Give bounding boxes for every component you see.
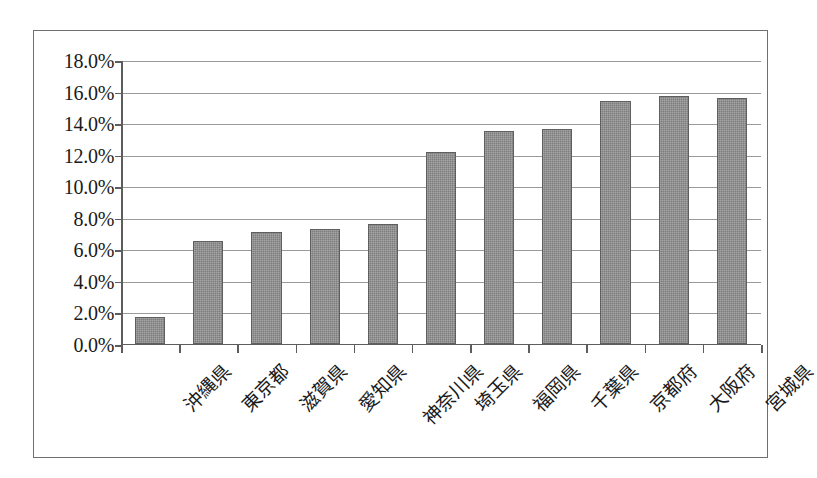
x-axis-tick-label-text: 滋賀県 [297,361,351,415]
y-axis-tick-label: 2.0% [74,303,114,323]
x-axis-tick-mark [586,345,588,353]
x-axis-tick-mark [761,345,763,353]
figure-frame: 0.0%2.0%4.0%6.0%8.0%10.0%12.0%14.0%16.0%… [33,30,768,458]
bar [251,232,281,344]
plot-area: 0.0%2.0%4.0%6.0%8.0%10.0%12.0%14.0%16.0%… [121,61,761,345]
bar [600,101,630,344]
y-axis-tick-mark [115,187,122,189]
x-axis-tick-mark [703,345,705,353]
gridline [121,93,761,94]
x-axis-tick-mark [412,345,414,353]
x-axis-tick-label-text: 千葉県 [588,361,642,415]
y-axis-tick-label: 8.0% [74,209,114,229]
x-axis-tick-label-text: 東京都 [239,361,293,415]
y-axis-tick-label: 14.0% [64,114,114,134]
bar [135,317,165,344]
y-axis-tick-mark [115,282,122,284]
x-axis-tick-label: 滋賀県 [297,361,351,415]
y-axis-tick-label: 12.0% [64,146,114,166]
x-axis-tick-label-text: 宮城県 [763,361,817,415]
bar [717,98,747,344]
x-axis-tick-mark [470,345,472,353]
y-axis-tick-mark [115,156,122,158]
y-axis-tick-mark [115,124,122,126]
x-axis-tick-label: 千葉県 [588,361,642,415]
x-axis-tick-label: 沖縄県 [181,361,235,415]
x-axis-tick-mark [179,345,181,353]
x-axis-tick-mark [528,345,530,353]
x-axis-tick-label-text: 大阪府 [704,361,758,415]
y-axis-tick-label: 18.0% [64,51,114,71]
y-axis-tick-label: 4.0% [74,272,114,292]
x-axis-tick-label: 京都府 [646,361,700,415]
gridline [121,61,761,62]
y-axis-tick-mark [115,219,122,221]
x-axis-tick-mark [296,345,298,353]
y-axis-tick-label: 6.0% [74,240,114,260]
x-axis-tick-label-text: 沖縄県 [181,361,235,415]
x-axis-tick-label-text: 福岡県 [530,361,584,415]
y-axis-tick-label: 16.0% [64,83,114,103]
y-axis-tick-mark [115,61,122,63]
x-axis-tick-label-text: 京都府 [646,361,700,415]
x-axis-tick-label: 宮城県 [763,361,817,415]
bar [426,152,456,344]
x-axis-tick-label: 福岡県 [530,361,584,415]
bar [484,131,514,344]
y-axis-tick-mark [115,250,122,252]
bar [368,224,398,344]
y-axis-tick-label: 10.0% [64,177,114,197]
x-axis-tick-label: 大阪府 [704,361,758,415]
x-axis-tick-mark [645,345,647,353]
bar [659,96,689,344]
x-axis-tick-label: 愛知県 [355,361,409,415]
bar [542,129,572,344]
x-axis-tick-label-text: 愛知県 [355,361,409,415]
bar [193,241,223,344]
x-axis-tick-mark [121,345,123,353]
y-axis-tick-mark [115,313,122,315]
y-axis-line [121,61,123,345]
y-axis-tick-label: 0.0% [74,335,114,355]
x-axis-tick-label: 東京都 [239,361,293,415]
bar-chart: 0.0%2.0%4.0%6.0%8.0%10.0%12.0%14.0%16.0%… [34,31,769,459]
bar [310,229,340,344]
y-axis-tick-mark [115,93,122,95]
x-axis-tick-mark [354,345,356,353]
x-axis-tick-mark [237,345,239,353]
